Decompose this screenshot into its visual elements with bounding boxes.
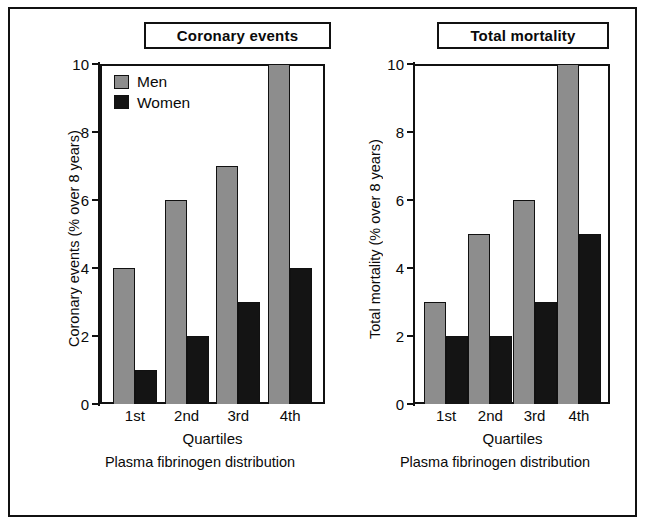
y-axis-label-total-mortality: Total mortality (% over 8 years) [367,89,383,389]
bar-women-3rd [238,302,260,404]
y-tick-label: 10 [387,57,407,72]
x-tick-label-1st: 1st [424,407,468,424]
bar-men-2nd [468,234,490,404]
legend-label-women: Women [137,95,190,111]
x-tick-label-1st: 1st [109,407,161,424]
y-tick-mark-icon [407,335,415,337]
y-tick-label: 8 [396,125,407,140]
x-tick-label-4th: 4th [264,407,316,424]
caption-left: Plasma fibrinogen distribution [40,454,360,470]
bar-group [468,64,512,404]
x-axis-tick-labels-right: 1st2nd3rd4th [415,407,610,424]
bar-men-4th [557,64,579,404]
y-tick-mark-icon [407,267,415,269]
bar-men-4th [268,64,290,404]
panel-coronary-events: Coronary events Coronary events (% over … [40,9,360,515]
y-tick-mark-icon [407,199,415,201]
y-tick-label: 2 [81,329,92,344]
x-tick-label-4th: 4th [557,407,601,424]
plot-area-total-mortality: 0246810 [415,64,610,404]
y-tick-label: 4 [396,261,407,276]
figure-frame: Coronary events Coronary events (% over … [8,7,637,517]
y-tick-label: 8 [81,125,92,140]
legend-swatch-women-icon [114,95,129,109]
y-tick-label: 2 [396,329,407,344]
x-axis-tick-labels-left: 1st2nd3rd4th [100,407,325,424]
y-tick-mark-icon [92,199,100,201]
bar-group [557,64,601,404]
y-tick-label: 0 [396,397,407,412]
y-tick-label: 10 [72,57,92,72]
x-tick-label-3rd: 3rd [513,407,557,424]
bar-group-container-right [415,64,610,404]
bar-men-3rd [513,200,535,404]
y-tick-label: 6 [81,193,92,208]
bar-women-4th [579,234,601,404]
y-tick-mark-icon [92,267,100,269]
y-tick-mark-icon [92,335,100,337]
legend-item-women: Women [114,95,190,111]
bar-group-container-left [100,64,325,404]
legend-item-men: Men [114,74,190,90]
legend-swatch-men-icon [114,75,129,89]
x-tick-label-2nd: 2nd [161,407,213,424]
y-tick-label: 0 [81,397,92,412]
bar-group [513,64,557,404]
bar-men-3rd [216,166,238,404]
bar-women-3rd [535,302,557,404]
legend-label-men: Men [137,74,167,90]
legend-coronary-events: Men Women [114,74,190,115]
bar-men-1st [424,302,446,404]
y-tick-mark-icon [92,63,100,65]
bar-women-4th [290,268,312,404]
panel-title-total-mortality: Total mortality [437,22,609,49]
y-tick-label: 4 [81,261,92,276]
y-tick-mark-icon [92,131,100,133]
bar-group [109,64,161,404]
bar-women-2nd [490,336,512,404]
x-tick-label-2nd: 2nd [468,407,512,424]
y-tick-label: 6 [396,193,407,208]
caption-right: Plasma fibrinogen distribution [355,454,635,470]
panel-title-coronary-events: Coronary events [144,22,331,49]
panel-total-mortality: Total mortality Total mortality (% over … [365,9,635,515]
x-axis-label-left: Quartiles [100,430,325,447]
y-axis-label-coronary-events: Coronary events (% over 8 years) [66,89,82,389]
bar-men-1st [113,268,135,404]
bar-group [213,64,265,404]
y-tick-mark-icon [92,403,100,405]
bar-men-2nd [165,200,187,404]
x-tick-label-3rd: 3rd [213,407,265,424]
y-tick-mark-icon [407,63,415,65]
y-tick-mark-icon [407,131,415,133]
x-axis-label-right: Quartiles [415,430,610,447]
bar-women-2nd [187,336,209,404]
bar-group [264,64,316,404]
plot-area-coronary-events: 0246810 Men Women [100,64,325,404]
y-tick-mark-icon [407,403,415,405]
bar-group [161,64,213,404]
bar-group [424,64,468,404]
bar-women-1st [446,336,468,404]
bar-women-1st [135,370,157,404]
